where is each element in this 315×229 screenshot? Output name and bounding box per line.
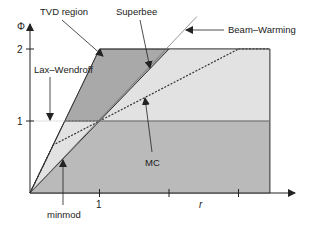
lax-wendroff-label: Lax–Wendroff [34,64,93,75]
mc-label: MC [145,157,160,168]
y-tick-label-2: 2 [17,44,23,55]
x-axis-label: r [199,199,203,210]
tvd-region-pointer [62,20,103,56]
minmod-label: minmod [47,209,81,220]
tvd-region-label: TVD region [40,6,88,17]
y-axis-label: Φ [17,21,25,32]
x-tick-label-1: 1 [96,199,102,210]
superbee-label: Superbee [116,6,157,17]
y-tick-label-1: 1 [17,116,23,127]
tvd-diagram: TVD region Superbee Beam–Warming Lax–Wen… [0,0,315,229]
beam-warming-label: Beam–Warming [228,24,296,35]
